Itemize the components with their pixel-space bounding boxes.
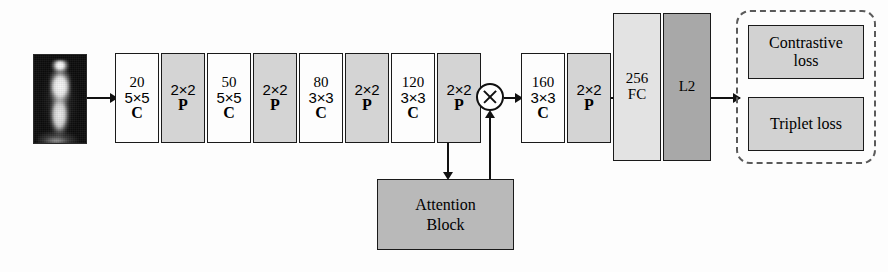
triplet-loss-label: Triplet loss: [770, 115, 842, 133]
layer-pool3[interactable]: 2×2 P: [345, 53, 389, 143]
layer-conv3-kernel: 3×3: [309, 90, 334, 105]
attention-block-line2: Block: [426, 215, 464, 235]
layer-conv5[interactable]: 160 3×3 C: [521, 53, 565, 143]
layer-conv2-tag: C: [223, 105, 235, 121]
contrastive-loss-label: Contrastive loss: [769, 34, 843, 70]
layer-pool3-tag: P: [362, 97, 372, 113]
multiply-node-icon: [476, 83, 504, 111]
layer-pool2[interactable]: 2×2 P: [253, 53, 297, 143]
contrastive-loss-line1: Contrastive: [769, 34, 843, 51]
layer-pool1[interactable]: 2×2 P: [161, 53, 205, 143]
layer-conv4-kernel: 3×3: [401, 90, 426, 105]
layer-conv5-filters: 160: [532, 75, 555, 90]
layer-conv1-tag: C: [131, 105, 143, 121]
layer-pool5-kernel: 2×2: [577, 82, 602, 97]
layer-conv1[interactable]: 20 5×5 C: [115, 53, 159, 143]
contrastive-loss-box[interactable]: Contrastive loss: [748, 25, 864, 79]
layer-pool4-tag: P: [454, 97, 464, 113]
layer-pool4[interactable]: 2×2 P: [437, 53, 481, 143]
layer-pool5[interactable]: 2×2 P: [567, 53, 611, 143]
layer-pool2-kernel: 2×2: [263, 82, 288, 97]
layer-conv3-tag: C: [315, 105, 327, 121]
layer-pool5-tag: P: [584, 97, 594, 113]
layer-conv4-filters: 120: [402, 75, 425, 90]
layer-pool1-tag: P: [178, 97, 188, 113]
fc-units: 256: [626, 71, 649, 87]
input-image-noise: [34, 55, 86, 143]
layer-conv4-tag: C: [407, 105, 419, 121]
layer-conv1-filters: 20: [130, 75, 145, 90]
layer-conv5-tag: C: [537, 105, 549, 121]
fully-connected-layer[interactable]: 256 FC: [613, 13, 661, 161]
layer-conv3-filters: 80: [314, 75, 329, 90]
connector-attention-up: [489, 118, 491, 180]
attention-block[interactable]: Attention Block: [377, 179, 514, 250]
input-thermal-image: [33, 54, 87, 144]
layer-conv3[interactable]: 80 3×3 C: [299, 53, 343, 143]
layer-conv2-filters: 50: [222, 75, 237, 90]
layer-conv5-kernel: 3×3: [531, 90, 556, 105]
layer-conv2-kernel: 5×5: [217, 90, 242, 105]
layer-conv4[interactable]: 120 3×3 C: [391, 53, 435, 143]
layer-pool2-tag: P: [270, 97, 280, 113]
layer-pool1-kernel: 2×2: [171, 82, 196, 97]
layer-pool4-kernel: 2×2: [447, 82, 472, 97]
fc-label: FC: [628, 87, 646, 103]
attention-block-line1: Attention: [415, 195, 475, 215]
layer-pool3-kernel: 2×2: [355, 82, 380, 97]
triplet-loss-box[interactable]: Triplet loss: [748, 97, 864, 151]
l2-normalization-layer[interactable]: L2: [663, 13, 711, 161]
arrowhead-attention-to-multiply: [485, 110, 495, 118]
layer-conv1-kernel: 5×5: [125, 90, 150, 105]
connector-pool4-down: [447, 143, 449, 175]
diagram-canvas: 20 5×5 C 2×2 P 50 5×5 C 2×2 P 80 3×3 C 2…: [0, 0, 888, 272]
contrastive-loss-line2: loss: [794, 52, 819, 69]
layer-conv2[interactable]: 50 5×5 C: [207, 53, 251, 143]
l2-label: L2: [679, 79, 696, 95]
